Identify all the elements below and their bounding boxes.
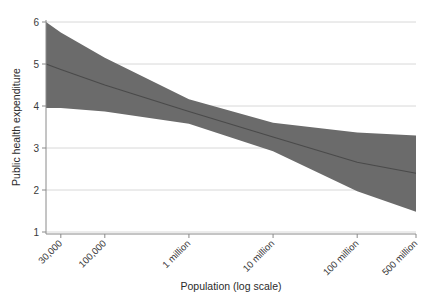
y-axis-title: Public health expenditure — [10, 68, 22, 186]
y-tick-label-6: 6 — [33, 17, 39, 28]
y-tick-label-1: 1 — [33, 227, 39, 238]
y-tick-label-4: 4 — [33, 101, 39, 112]
y-tick-label-2: 2 — [33, 185, 39, 196]
x-axis-title: Population (log scale) — [181, 280, 282, 292]
chart-figure: 123456 30,000100,0001 million10 million1… — [0, 0, 431, 303]
chart-canvas: 123456 30,000100,0001 million10 million1… — [0, 0, 431, 303]
y-tick-label-3: 3 — [33, 143, 39, 154]
y-tick-label-5: 5 — [33, 59, 39, 70]
